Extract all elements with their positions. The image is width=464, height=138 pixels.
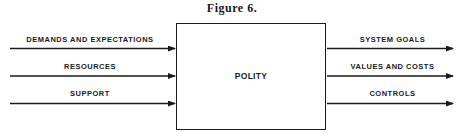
output-label-values-costs: VALUES AND COSTS: [330, 62, 455, 71]
input-label-support: SUPPORT: [10, 89, 170, 98]
output-label-system-goals: SYSTEM GOALS: [330, 35, 455, 44]
polity-label: POLITY: [176, 71, 326, 81]
output-label-controls: CONTROLS: [330, 89, 455, 98]
input-label-resources: RESOURCES: [10, 62, 170, 71]
input-label-demands: DEMANDS AND EXPECTATIONS: [10, 35, 170, 44]
